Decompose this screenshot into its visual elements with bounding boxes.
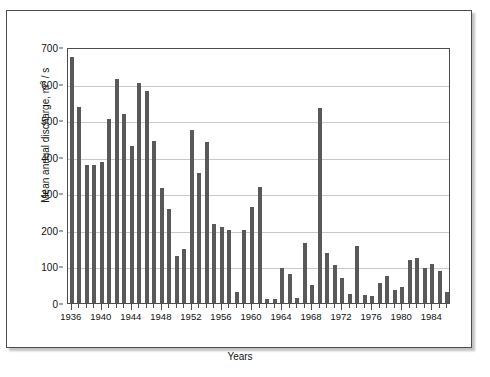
x-axis-tick-mark	[311, 304, 312, 310]
x-axis-tick-mark	[176, 304, 177, 308]
x-axis-tick-mark	[146, 304, 147, 308]
bar	[92, 165, 96, 303]
x-axis-tick-mark	[153, 304, 154, 308]
x-axis-tick-mark	[123, 304, 124, 308]
bar	[355, 246, 359, 303]
x-axis-tick-mark	[251, 304, 252, 310]
bar	[197, 173, 201, 303]
bar	[348, 294, 352, 303]
bar	[122, 114, 126, 303]
bar	[212, 224, 216, 303]
bar	[378, 283, 382, 303]
bar	[303, 243, 307, 303]
x-axis-tick-label: 1976	[361, 311, 382, 322]
x-axis-tick-mark	[394, 304, 395, 308]
x-axis-tick-mark	[213, 304, 214, 308]
x-axis-tick-mark	[161, 304, 162, 310]
x-axis-tick-mark	[379, 304, 380, 308]
x-axis-tick-mark	[281, 304, 282, 310]
bar	[70, 57, 74, 303]
plot-area	[67, 48, 450, 304]
x-axis-tick-mark	[138, 304, 139, 308]
x-axis-tick-mark	[386, 304, 387, 308]
x-axis-tick-mark	[243, 304, 244, 308]
bar	[242, 230, 246, 303]
y-axis-tick-label: 700	[41, 43, 58, 54]
bar	[333, 265, 337, 303]
x-axis-tick-mark	[274, 304, 275, 308]
y-axis-tick-mark	[59, 84, 63, 85]
bar	[182, 249, 186, 303]
bar	[258, 187, 262, 303]
bar	[370, 296, 374, 303]
bar	[438, 271, 442, 303]
bar-series	[68, 49, 449, 303]
x-axis-tick-label: 1944	[120, 311, 141, 322]
x-axis-tick-mark	[259, 304, 260, 308]
bar	[220, 227, 224, 303]
x-axis-tick-label: 1940	[90, 311, 111, 322]
x-axis-tick-mark	[116, 304, 117, 308]
bar	[107, 119, 111, 303]
bar	[280, 268, 284, 303]
x-axis-tick-mark	[401, 304, 402, 310]
y-axis-tick-label: 100	[41, 262, 58, 273]
bar	[130, 146, 134, 303]
bar	[273, 299, 277, 303]
y-axis-tick-labels: 0100200300400500600700	[7, 48, 63, 304]
x-axis-tick-mark	[319, 304, 320, 308]
x-axis-tick-mark	[71, 304, 72, 310]
x-axis-tick-mark	[228, 304, 229, 308]
bar	[145, 91, 149, 303]
bar	[175, 256, 179, 303]
y-axis-tick-mark	[59, 157, 63, 158]
bar	[227, 230, 231, 303]
chart-frame: Mean annual discharge, m3 / s 0100200300…	[6, 10, 472, 348]
x-axis-tick-mark	[191, 304, 192, 310]
bar	[137, 83, 141, 303]
x-axis-tick-label: 1972	[331, 311, 352, 322]
x-axis-tick-label: 1956	[210, 311, 231, 322]
x-axis-tick-mark	[446, 304, 447, 308]
x-axis-tick-mark	[78, 304, 79, 308]
y-axis-tick-label: 200	[41, 225, 58, 236]
bar	[415, 258, 419, 303]
y-axis-tick-mark	[59, 121, 63, 122]
x-axis-tick-label: 1936	[60, 311, 81, 322]
bar	[295, 298, 299, 303]
x-axis-tick-mark	[183, 304, 184, 308]
x-axis-tick-mark	[356, 304, 357, 308]
x-axis-tick-label: 1984	[421, 311, 442, 322]
x-axis-tick-label: 1952	[180, 311, 201, 322]
bar	[100, 162, 104, 303]
x-axis-tick-mark	[289, 304, 290, 308]
x-axis-tick-mark	[431, 304, 432, 310]
bar	[85, 165, 89, 303]
x-axis-title: Years	[7, 351, 473, 362]
x-axis-tick-mark	[131, 304, 132, 310]
x-axis-tick-label: 1960	[240, 311, 261, 322]
bar	[423, 268, 427, 303]
x-axis-tick-mark	[341, 304, 342, 310]
y-axis-tick-label: 0	[52, 299, 58, 310]
bar	[393, 290, 397, 303]
bar	[408, 260, 412, 303]
bar	[250, 207, 254, 303]
x-axis-tick-mark	[236, 304, 237, 308]
y-axis-tick-label: 600	[41, 79, 58, 90]
bar	[235, 292, 239, 303]
bar	[160, 188, 164, 303]
x-axis-tick-mark	[296, 304, 297, 308]
x-axis-tick-mark	[334, 304, 335, 308]
x-axis-tick-mark	[304, 304, 305, 308]
bar	[115, 79, 119, 303]
x-axis-tick-mark	[371, 304, 372, 310]
x-axis-tick-mark	[206, 304, 207, 308]
x-axis-tick-label: 1968	[300, 311, 321, 322]
y-axis-tick-mark	[59, 194, 63, 195]
bar	[167, 209, 171, 303]
x-axis-tick-mark	[424, 304, 425, 308]
y-axis-tick-label: 500	[41, 116, 58, 127]
y-axis-tick-mark	[59, 48, 63, 49]
bar	[445, 292, 449, 303]
